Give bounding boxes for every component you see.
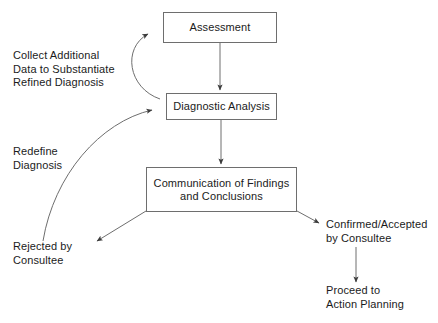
edge-rejected-to-diagnostic [43, 110, 152, 241]
edge-communication-to-confirmed [297, 211, 319, 223]
node-assessment: Assessment [163, 12, 277, 43]
node-diagnostic-analysis: Diagnostic Analysis [166, 93, 277, 120]
node-communication-of-findings: Communication of Findings and Conclusion… [146, 167, 297, 212]
caption-collect-additional-data: Collect Additional Data to Substantiate … [13, 49, 143, 90]
node-assessment-label: Assessment [190, 21, 251, 34]
caption-confirmed-accepted-by-consultee: Confirmed/Accepted by Consultee [326, 218, 438, 245]
flowchart-diagram: Assessment Diagnostic Analysis Communica… [0, 0, 438, 323]
caption-redefine-diagnosis: Redefine Diagnosis [13, 145, 108, 172]
caption-rejected-by-consultee: Rejected by Consultee [13, 240, 113, 267]
node-communication-of-findings-label: Communication of Findings and Conclusion… [154, 177, 290, 203]
edge-communication-to-rejected [97, 211, 146, 241]
node-diagnostic-analysis-label: Diagnostic Analysis [173, 100, 270, 113]
caption-proceed-to-action-planning: Proceed to Action Planning [326, 284, 436, 311]
